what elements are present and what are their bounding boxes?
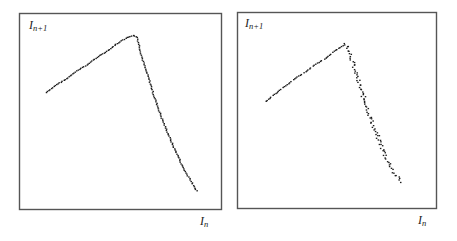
data-point (75, 72, 77, 73)
right-x-axis-label: In (417, 213, 426, 228)
data-point (145, 69, 147, 70)
data-point (177, 155, 179, 156)
data-point (356, 77, 358, 78)
data-point (380, 141, 382, 142)
data-point (296, 76, 298, 77)
data-point (144, 65, 146, 66)
data-point (165, 126, 167, 127)
data-point (285, 85, 287, 86)
data-point (385, 155, 387, 156)
data-point (186, 173, 188, 174)
data-point (185, 171, 187, 172)
data-point (385, 152, 387, 153)
data-point (357, 76, 359, 77)
data-point (95, 58, 97, 59)
data-point (371, 118, 373, 119)
data-point (363, 94, 365, 95)
data-point (375, 131, 377, 132)
data-point (284, 86, 286, 87)
data-point (268, 99, 270, 100)
left-panel: In+1 In (20, 14, 222, 230)
data-point (61, 81, 63, 82)
data-point (369, 117, 371, 118)
data-point (80, 68, 82, 69)
data-point (377, 132, 379, 133)
data-point (301, 74, 303, 75)
data-point (364, 103, 366, 104)
data-point (354, 72, 356, 73)
data-point (143, 64, 145, 65)
data-point (182, 167, 184, 168)
data-point (368, 108, 370, 109)
data-point (162, 121, 164, 122)
data-point (196, 190, 198, 191)
data-point (378, 139, 380, 140)
data-point (105, 52, 107, 53)
figure-canvas: In+1 In In+1 In (0, 0, 457, 241)
data-point (286, 84, 288, 85)
data-point (160, 118, 162, 119)
data-point (183, 168, 185, 169)
data-point (139, 48, 141, 49)
data-point (368, 113, 370, 114)
data-point (399, 178, 401, 179)
data-point (356, 80, 358, 81)
data-point (392, 172, 394, 173)
data-point (150, 85, 152, 86)
data-point (389, 166, 391, 167)
data-point (360, 84, 362, 85)
data-point (180, 163, 182, 164)
data-point (128, 37, 130, 38)
data-point (170, 140, 172, 141)
data-point (46, 92, 48, 93)
data-point (280, 89, 282, 90)
left-x-axis-label: In (199, 214, 208, 229)
data-point (110, 48, 112, 49)
data-point (269, 98, 271, 99)
data-point (148, 77, 150, 78)
data-point (332, 52, 334, 53)
data-point (344, 44, 346, 45)
data-point (193, 185, 195, 186)
data-point (384, 151, 386, 152)
data-point (194, 186, 196, 187)
data-point (363, 93, 365, 94)
left-y-axis-label: In+1 (28, 18, 47, 33)
data-point (366, 109, 368, 110)
data-point (102, 53, 104, 54)
data-point (366, 106, 368, 107)
data-point (321, 60, 323, 61)
data-point (303, 72, 305, 73)
data-point (356, 74, 358, 75)
data-point (349, 53, 351, 54)
data-point (155, 100, 157, 101)
data-point (349, 58, 351, 59)
data-point (175, 151, 177, 152)
data-point (395, 175, 397, 176)
data-point (149, 82, 151, 83)
data-point (100, 54, 102, 55)
data-point (162, 119, 164, 120)
data-point (289, 82, 291, 83)
data-point (55, 85, 57, 86)
data-point (174, 148, 176, 149)
data-point (336, 49, 338, 50)
data-point (140, 51, 142, 52)
data-point (347, 50, 349, 51)
data-point (195, 189, 197, 190)
data-point (372, 120, 374, 121)
data-point (151, 88, 153, 89)
data-point (175, 152, 177, 153)
data-point (137, 40, 139, 41)
data-point (183, 170, 185, 171)
data-point (189, 179, 191, 180)
data-point (373, 129, 375, 130)
data-point (166, 129, 168, 130)
data-point (151, 86, 153, 87)
data-point (56, 84, 58, 85)
left-scatter-points (46, 35, 198, 192)
data-point (350, 56, 352, 57)
data-point (179, 159, 181, 160)
data-point (122, 39, 124, 40)
data-point (138, 42, 140, 43)
